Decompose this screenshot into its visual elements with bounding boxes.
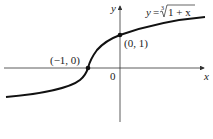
point-label-neg1-0: (−1, 0) [50, 54, 80, 67]
cube-root-graph: y x 0 (−1, 0) (0, 1) y = 3 1 + x [0, 0, 213, 139]
function-label: y = 3 1 + x [145, 5, 195, 18]
y-axis-label: y [110, 2, 116, 14]
svg-text:1 + x: 1 + x [168, 6, 191, 18]
point-neg1-0 [86, 66, 91, 71]
origin-label: 0 [110, 70, 116, 82]
point-0-1 [118, 33, 123, 38]
function-curve [6, 17, 205, 97]
x-axis-label: x [203, 70, 209, 82]
svg-text:3: 3 [161, 5, 164, 11]
point-label-0-1: (0, 1) [124, 37, 148, 50]
svg-text:y: y [145, 6, 151, 18]
svg-text:=: = [153, 6, 159, 18]
